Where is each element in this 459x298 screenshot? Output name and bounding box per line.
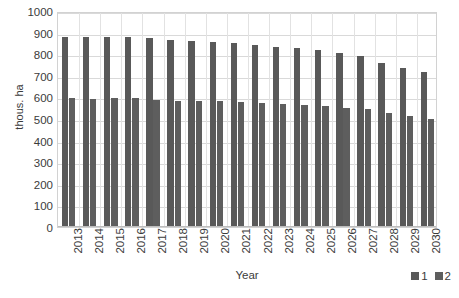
- y-axis-tick: 1000: [12, 7, 53, 18]
- bar-group: [311, 13, 332, 227]
- x-axis-tick: 2015: [115, 228, 126, 268]
- x-axis-tick: 2018: [178, 228, 189, 268]
- bar[interactable]: [428, 119, 434, 227]
- bar[interactable]: [132, 98, 138, 227]
- bar[interactable]: [210, 42, 216, 227]
- y-axis-tick: 500: [12, 115, 53, 126]
- bar[interactable]: [421, 72, 427, 227]
- y-axis-tick: 900: [12, 28, 53, 39]
- x-axis-tick: 2016: [136, 228, 147, 268]
- bar[interactable]: [294, 48, 300, 227]
- bar-group: [142, 13, 163, 227]
- bar[interactable]: [217, 101, 223, 227]
- x-axis-tick: 2024: [305, 228, 316, 268]
- y-axis-tick-labels: 01002003004005006007008009001000: [12, 12, 53, 228]
- bar-group: [206, 13, 227, 227]
- legend-label: 1: [421, 271, 427, 281]
- x-axis-tick: 2021: [241, 228, 252, 268]
- bar[interactable]: [357, 56, 363, 227]
- x-axis-tick: 2020: [220, 228, 231, 268]
- bar[interactable]: [365, 109, 371, 227]
- legend-swatch-icon: [435, 272, 443, 280]
- bars-layer: [58, 13, 436, 227]
- bar-group: [79, 13, 100, 227]
- bar-group: [417, 13, 437, 227]
- bar-group: [354, 13, 375, 227]
- bar-group: [375, 13, 396, 227]
- legend-item[interactable]: 1: [411, 271, 427, 281]
- bar-group: [100, 13, 121, 227]
- bar-group: [269, 13, 290, 227]
- bar[interactable]: [111, 98, 117, 227]
- bar[interactable]: [175, 101, 181, 227]
- bar[interactable]: [188, 41, 194, 227]
- bar[interactable]: [153, 100, 159, 227]
- x-axis-tick: 2027: [368, 228, 379, 268]
- bar[interactable]: [90, 99, 96, 227]
- y-axis-tick: 100: [12, 201, 53, 212]
- bar-group: [185, 13, 206, 227]
- bar[interactable]: [231, 43, 237, 227]
- bar[interactable]: [273, 47, 279, 227]
- bar-chart: thous. ha 010020030040050060070080090010…: [0, 0, 459, 298]
- y-axis-tick: 0: [12, 223, 53, 234]
- bar[interactable]: [280, 104, 286, 227]
- y-axis-tick: 400: [12, 136, 53, 147]
- y-axis-tick: 200: [12, 179, 53, 190]
- x-axis-tick: 2029: [410, 228, 421, 268]
- x-axis-tick: 2026: [347, 228, 358, 268]
- bar[interactable]: [400, 68, 406, 227]
- x-axis-tick: 2014: [94, 228, 105, 268]
- x-axis-tick: 2019: [199, 228, 210, 268]
- x-axis-title: Year: [57, 269, 437, 281]
- bar[interactable]: [386, 113, 392, 227]
- axis-baseline: [58, 226, 436, 227]
- x-axis-tick: 2017: [157, 228, 168, 268]
- bar[interactable]: [196, 101, 202, 227]
- bar-group: [290, 13, 311, 227]
- x-axis-tick: 2023: [284, 228, 295, 268]
- y-axis-tick: 300: [12, 158, 53, 169]
- bar-group: [332, 13, 353, 227]
- bar[interactable]: [104, 37, 110, 227]
- legend-item[interactable]: 2: [435, 271, 451, 281]
- x-axis-tick: 2013: [73, 228, 84, 268]
- chart-legend: 12: [411, 271, 451, 281]
- bar[interactable]: [167, 40, 173, 227]
- bar[interactable]: [252, 45, 258, 227]
- bar[interactable]: [322, 106, 328, 227]
- y-axis-tick: 800: [12, 50, 53, 61]
- legend-swatch-icon: [411, 272, 419, 280]
- x-axis-tick: 2025: [326, 228, 337, 268]
- bar[interactable]: [83, 37, 89, 227]
- bar-group: [121, 13, 142, 227]
- bar-group: [227, 13, 248, 227]
- bar-group: [164, 13, 185, 227]
- bar[interactable]: [301, 105, 307, 227]
- y-axis-tick: 700: [12, 71, 53, 82]
- bar-group: [396, 13, 417, 227]
- legend-label: 2: [445, 271, 451, 281]
- bar[interactable]: [336, 53, 342, 227]
- bar[interactable]: [378, 63, 384, 227]
- x-axis-tick: 2030: [431, 228, 442, 268]
- bar[interactable]: [62, 37, 68, 227]
- bar[interactable]: [315, 50, 321, 227]
- bar[interactable]: [238, 102, 244, 227]
- bar[interactable]: [146, 38, 152, 227]
- bar[interactable]: [69, 98, 75, 227]
- bar-group: [58, 13, 79, 227]
- bar-group: [248, 13, 269, 227]
- y-axis-tick: 600: [12, 93, 53, 104]
- bar[interactable]: [343, 108, 349, 227]
- plot-area: [57, 12, 437, 228]
- bar[interactable]: [259, 103, 265, 227]
- x-axis-tick-labels: 2013201420152016201720182019202020212022…: [57, 228, 437, 272]
- bar[interactable]: [407, 116, 413, 227]
- bar[interactable]: [125, 37, 131, 227]
- x-axis-tick: 2022: [263, 228, 274, 268]
- x-axis-tick: 2028: [389, 228, 400, 268]
